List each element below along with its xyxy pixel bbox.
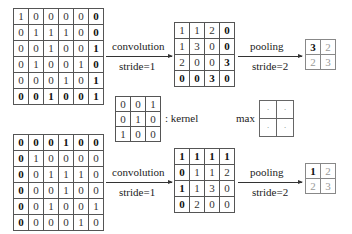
top-pooling-label: pooling — [250, 40, 284, 52]
cell: 1 — [74, 215, 89, 231]
cell: 0 — [29, 199, 44, 215]
cell: 1 — [175, 181, 190, 197]
cell: 1 — [29, 57, 44, 73]
cell: 1 — [175, 23, 190, 39]
top-convolution-label: convolution — [112, 40, 165, 52]
cell: 1 — [89, 73, 104, 89]
cell: 2 — [321, 164, 336, 179]
max-window-grid: ·· ·· — [259, 100, 294, 137]
cell: 1 — [175, 149, 190, 165]
top-pooling-arrow — [238, 56, 302, 57]
cell: 0 — [14, 57, 29, 73]
cell: 1 — [44, 89, 59, 105]
cell: 0 — [29, 183, 44, 199]
cell: 0 — [14, 199, 29, 215]
cell: 1 — [59, 73, 74, 89]
kernel-label: : kernel — [165, 112, 198, 124]
cell: 0 — [74, 135, 89, 151]
cell: 1 — [190, 149, 205, 165]
cell: 1 — [175, 39, 190, 55]
cell: 1 — [44, 199, 59, 215]
cell: 0 — [44, 151, 59, 167]
cell: 0 — [74, 41, 89, 57]
cell: 0 — [190, 71, 205, 87]
bottom-pooling-arrow — [238, 182, 302, 183]
max-label: max — [236, 112, 255, 124]
cell: 1 — [306, 164, 321, 179]
cell: 1 — [59, 167, 74, 183]
cell: 0 — [29, 41, 44, 57]
kernel-matrix: 001 010 100 — [115, 96, 161, 142]
cell: 2 — [321, 40, 336, 55]
cell: 0 — [175, 165, 190, 181]
cell: 1 — [131, 112, 146, 127]
cell: · — [277, 119, 294, 137]
cell: 2 — [175, 55, 190, 71]
cell: · — [277, 101, 294, 119]
cell: 0 — [146, 127, 161, 142]
top-convolution-stride: stride=1 — [119, 60, 155, 72]
cell: 0 — [14, 89, 29, 105]
cell: 0 — [59, 215, 74, 231]
cell: 0 — [205, 197, 220, 213]
top-input-matrix: 100000 011100 001001 010010 000101 00100… — [13, 8, 104, 105]
cell: 3 — [205, 181, 220, 197]
cell: 0 — [44, 57, 59, 73]
cell: 0 — [74, 199, 89, 215]
cell: 0 — [131, 97, 146, 112]
cell: 1 — [29, 25, 44, 41]
cell: 0 — [74, 89, 89, 105]
cell: 0 — [59, 199, 74, 215]
cell: 2 — [220, 165, 235, 181]
cell: 0 — [89, 151, 104, 167]
cell: 0 — [14, 167, 29, 183]
cell: 0 — [89, 135, 104, 151]
cell: 0 — [89, 9, 104, 25]
cell: 0 — [220, 23, 235, 39]
cell: 0 — [44, 73, 59, 89]
cell: 2 — [205, 23, 220, 39]
cell: 1 — [74, 57, 89, 73]
bottom-input-matrix: 000100 010000 001110 000100 001001 00001… — [13, 134, 104, 231]
cell: 1 — [190, 181, 205, 197]
top-conv-output-matrix: 1120 1300 2003 0030 — [174, 22, 235, 87]
cell: 0 — [89, 25, 104, 41]
cell: 1 — [116, 127, 131, 142]
cell: 0 — [14, 135, 29, 151]
cell: 0 — [44, 215, 59, 231]
cell: 1 — [89, 89, 104, 105]
cell: · — [260, 101, 277, 119]
cell: · — [260, 119, 277, 137]
cell: 3 — [190, 39, 205, 55]
cell: 1 — [44, 41, 59, 57]
cell: 3 — [220, 55, 235, 71]
cell: 0 — [29, 73, 44, 89]
cell: 0 — [89, 167, 104, 183]
cell: 0 — [14, 25, 29, 41]
cell: 1 — [146, 97, 161, 112]
cell: 0 — [59, 41, 74, 57]
cell: 1 — [205, 149, 220, 165]
bottom-convolution-arrow — [106, 182, 172, 183]
cell: 0 — [14, 183, 29, 199]
cell: 1 — [44, 167, 59, 183]
cell: 1 — [190, 165, 205, 181]
cell: 1 — [74, 167, 89, 183]
cell: 0 — [146, 112, 161, 127]
cell: 0 — [220, 71, 235, 87]
bottom-pooling-label: pooling — [250, 166, 284, 178]
cell: 1 — [190, 23, 205, 39]
cell: 0 — [74, 151, 89, 167]
cell: 0 — [29, 9, 44, 25]
cell: 0 — [220, 197, 235, 213]
cell: 0 — [74, 73, 89, 89]
cell: 0 — [116, 97, 131, 112]
cell: 0 — [74, 25, 89, 41]
cell: 0 — [190, 55, 205, 71]
cell: 0 — [29, 89, 44, 105]
cell: 1 — [14, 9, 29, 25]
cell: 1 — [59, 25, 74, 41]
cell: 0 — [89, 183, 104, 199]
cell: 3 — [306, 40, 321, 55]
cell: 1 — [205, 165, 220, 181]
